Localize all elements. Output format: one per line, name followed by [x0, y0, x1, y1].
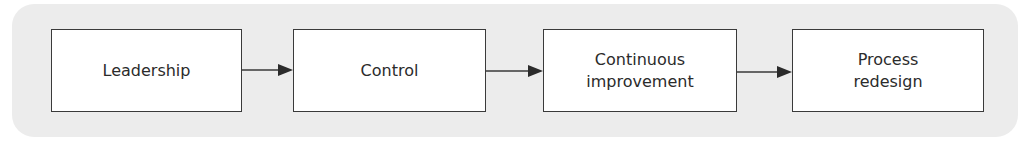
arrow-continuous-improvement-to-process-redesign — [737, 66, 792, 78]
connector-arrows — [0, 0, 1028, 144]
arrow-leadership-to-control — [242, 64, 293, 76]
arrow-control-to-continuous-improvement — [486, 65, 543, 77]
